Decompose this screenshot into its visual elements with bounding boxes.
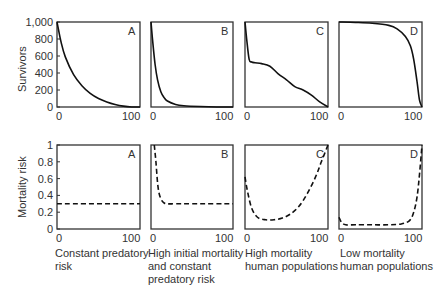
y-tick-label: 800	[35, 33, 53, 45]
y-tick-label: 0	[47, 101, 53, 113]
caption-b: High initial mortality and constant pred…	[148, 247, 243, 286]
x-tick-label: 100	[215, 110, 233, 122]
x-tick-label: 100	[122, 110, 140, 122]
x-tick-label: 0	[56, 110, 62, 122]
x-tick-label: 0	[244, 232, 250, 244]
x-tick-label: 0	[338, 110, 344, 122]
x-tick-label: 100	[404, 232, 422, 244]
y-tick-label: 0	[47, 223, 53, 235]
panel-letter: A	[128, 25, 136, 37]
panel-letter: D	[410, 25, 418, 37]
x-tick-label: 100	[215, 232, 233, 244]
panel-letter: C	[316, 25, 324, 37]
x-tick-label: 0	[150, 232, 156, 244]
x-tick-label: 0	[244, 110, 250, 122]
y-tick-label: 200	[35, 84, 53, 96]
y-tick-label: 0.6	[38, 173, 53, 185]
x-tick-label: 100	[122, 232, 140, 244]
y-tick-label: 0.4	[38, 189, 53, 201]
panel-letter: A	[128, 148, 136, 160]
x-tick-label: 0	[150, 110, 156, 122]
x-tick-label: 100	[310, 110, 328, 122]
y-tick-label: 0.2	[38, 206, 53, 218]
y-tick-label: 0.8	[38, 156, 53, 168]
y-tick-label: 400	[35, 67, 53, 79]
x-tick-label: 0	[338, 232, 344, 244]
panel-letter: B	[221, 25, 228, 37]
x-tick-label: 100	[404, 110, 422, 122]
mortality-axis-label: Mortality risk	[16, 156, 28, 218]
panel-letter: B	[221, 148, 228, 160]
x-tick-label: 100	[310, 232, 328, 244]
x-tick-label: 0	[56, 232, 62, 244]
survivors-axis-label: Survivors	[16, 46, 28, 92]
caption-a: Constant predatory risk	[55, 247, 149, 273]
y-tick-label: 600	[35, 50, 53, 62]
y-tick-label: 1,000	[25, 16, 53, 28]
panel-letter: C	[316, 148, 324, 160]
caption-d: Low mortality human populations	[340, 247, 433, 273]
panel-letter: D	[410, 148, 418, 160]
caption-c: High mortality human populations	[245, 247, 338, 273]
y-tick-label: 1	[47, 139, 53, 151]
